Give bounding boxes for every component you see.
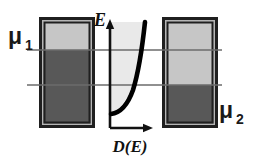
- left-reservoir-occupied-fill: [42, 50, 92, 125]
- dos-axis-arrow-icon: [143, 124, 153, 132]
- mu2-label-symbol: μ: [219, 97, 233, 123]
- diagram-canvas: E D(E) μ 1 μ 2: [0, 0, 256, 162]
- left-reservoir: [41, 19, 94, 127]
- energy-axis-label: E: [93, 10, 106, 30]
- energy-diagram-figure: E D(E) μ 1 μ 2: [0, 0, 256, 162]
- mu2-label-subscript: 2: [236, 111, 244, 127]
- mu1-label-subscript: 1: [25, 37, 33, 53]
- right-reservoir: [164, 19, 217, 127]
- mu1-label: μ 1: [8, 23, 33, 53]
- right-reservoir-occupied-fill: [165, 85, 215, 125]
- dos-axis-label: D(E): [112, 137, 148, 156]
- mu2-label: μ 2: [219, 97, 244, 127]
- mu1-label-symbol: μ: [8, 23, 22, 49]
